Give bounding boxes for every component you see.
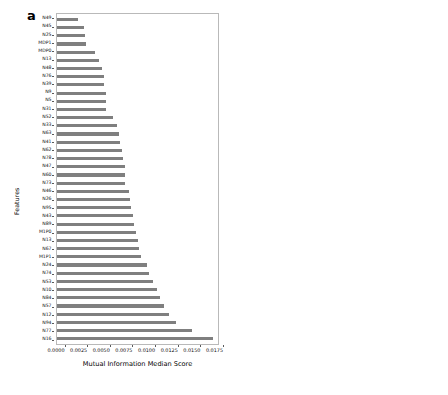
ytick-label: N31: [16, 105, 54, 113]
bar-row: [57, 335, 218, 343]
ytick-label: N5: [16, 97, 54, 105]
ytick-label: N12: [16, 311, 54, 319]
bar: [57, 247, 139, 250]
bar: [57, 263, 147, 266]
bar-row: [57, 212, 218, 220]
bar-row: [57, 122, 218, 130]
panel-a-ytick-labels: N49N45N25MDP1MDP0N13N48N76N39N9N5N31N52N…: [16, 13, 54, 345]
bar-row: [57, 204, 218, 212]
ytick-label: N89: [16, 220, 54, 228]
bar: [57, 182, 125, 185]
bar-row: [57, 285, 218, 293]
bar: [57, 206, 131, 209]
bar: [57, 288, 157, 291]
figure-container: a Features N49N45N25MDP1MDP0N13N48N76N39…: [0, 0, 448, 395]
ytick-label: N13: [16, 237, 54, 245]
bar-row: [57, 326, 218, 334]
ytick-label: N26: [16, 195, 54, 203]
bar-row: [57, 97, 218, 105]
ytick-label: N94: [16, 319, 54, 327]
bar-row: [57, 15, 218, 23]
bar-row: [57, 163, 218, 171]
bar: [57, 296, 160, 299]
bar-row: [57, 81, 218, 89]
panel-a-xtick-labels: 0.00000.00250.00500.00750.01000.01250.01…: [56, 347, 219, 359]
panel-a-xlabel: Mutual Information Median Score: [56, 360, 219, 368]
ytick-label: N63: [16, 130, 54, 138]
bar: [57, 337, 213, 340]
ytick-label: N67: [16, 245, 54, 253]
bar: [57, 116, 113, 119]
bar: [57, 239, 138, 242]
ytick-label: N39: [16, 80, 54, 88]
ytick-label: N52: [16, 113, 54, 121]
bar-row: [57, 228, 218, 236]
ytick-label: N9: [16, 88, 54, 96]
bar-row: [57, 245, 218, 253]
bar-row: [57, 310, 218, 318]
bar-row: [57, 23, 218, 31]
bar-row: [57, 253, 218, 261]
ytick-label: MDP1: [16, 39, 54, 47]
ytick-label: N10: [16, 286, 54, 294]
ytick-label: MDP0: [16, 47, 54, 55]
ytick-label: N73: [16, 179, 54, 187]
bar: [57, 157, 123, 160]
bar: [57, 214, 133, 217]
bar: [57, 272, 149, 275]
bar: [57, 190, 129, 193]
bar: [57, 304, 164, 307]
bar-row: [57, 40, 218, 48]
ytick-label: N95: [16, 204, 54, 212]
bar: [57, 321, 176, 324]
bar-row: [57, 64, 218, 72]
bar: [57, 75, 104, 78]
bar-row: [57, 318, 218, 326]
ytick-label: N78: [16, 154, 54, 162]
bar: [57, 92, 106, 95]
bar-row: [57, 179, 218, 187]
ytick-label: N33: [16, 121, 54, 129]
bar: [57, 34, 85, 37]
ytick-label: N24: [16, 261, 54, 269]
bar: [57, 141, 120, 144]
bar-row: [57, 89, 218, 97]
ytick-label: M1P0: [16, 228, 54, 236]
bar-row: [57, 277, 218, 285]
bar-row: [57, 236, 218, 244]
bar-row: [57, 220, 218, 228]
bar: [57, 231, 136, 234]
bar: [57, 132, 119, 135]
bar: [57, 255, 141, 258]
ytick-label: N43: [16, 212, 54, 220]
bar-row: [57, 56, 218, 64]
ytick-label: N84: [16, 294, 54, 302]
ytick-label: N74: [16, 270, 54, 278]
bar: [57, 83, 104, 86]
bar: [57, 100, 106, 103]
bar: [57, 223, 134, 226]
bar: [57, 124, 117, 127]
ytick-label: N41: [16, 138, 54, 146]
ytick-label: N57: [16, 303, 54, 311]
bar: [57, 149, 122, 152]
bar-row: [57, 48, 218, 56]
bar-row: [57, 261, 218, 269]
ytick-label: N45: [16, 23, 54, 31]
bar: [57, 108, 106, 111]
ytick-label: N47: [16, 163, 54, 171]
bar-row: [57, 195, 218, 203]
ytick-label: N25: [16, 31, 54, 39]
bar: [57, 173, 125, 176]
ytick-label: N49: [16, 14, 54, 22]
bar-row: [57, 130, 218, 138]
ytick-label: N13: [16, 55, 54, 63]
bar: [57, 26, 84, 29]
bar: [57, 18, 78, 21]
bar-row: [57, 269, 218, 277]
ytick-label: N60: [16, 171, 54, 179]
bar-row: [57, 105, 218, 113]
bar: [57, 198, 130, 201]
bar-row: [57, 154, 218, 162]
bar-row: [57, 146, 218, 154]
